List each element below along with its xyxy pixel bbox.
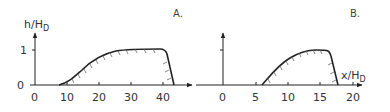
y-tick-label-0: 0 (17, 79, 24, 92)
x-tick-label: 20 (346, 91, 360, 104)
panel-b-label: B. (350, 8, 360, 19)
x-tick-label: 30 (124, 91, 138, 104)
x-axis-label: x/HD (341, 69, 366, 84)
x-tick-label: 20 (92, 91, 106, 104)
panel-a: A. h/HD 1 0 0 10 20 30 40 (17, 8, 192, 104)
profile-curve-a (59, 49, 174, 85)
panel-a-label: A. (173, 8, 183, 19)
x-tick-label: 40 (156, 91, 170, 104)
x-tick-label: 0 (31, 91, 38, 104)
figure: A. h/HD 1 0 0 10 20 30 40 (0, 0, 390, 112)
panel-b: B. x/HD 0 5 10 15 20 (196, 8, 366, 104)
x-tick-label: 15 (313, 91, 327, 104)
x-tick-label: 10 (60, 91, 74, 104)
x-tick-label: 0 (219, 91, 226, 104)
y-axis-label: h/HD (24, 18, 49, 33)
hatch-marks-a (66, 49, 171, 86)
y-tick-label-1: 1 (20, 44, 27, 57)
x-tick-label: 5 (252, 91, 259, 104)
x-tick-label: 10 (281, 91, 295, 104)
